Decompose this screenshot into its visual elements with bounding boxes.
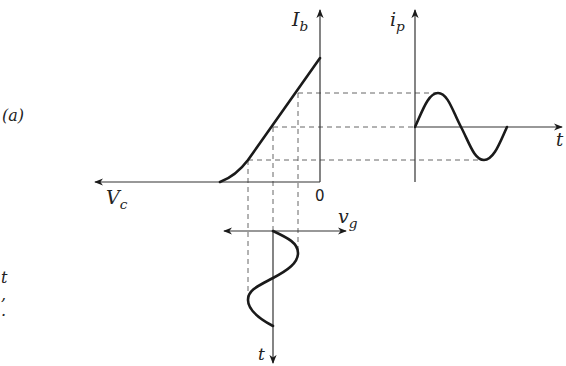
transfer-axes: [95, 10, 320, 182]
ip-sub: p: [396, 18, 405, 34]
vc-main: V: [106, 186, 120, 208]
origin-label: 0: [315, 189, 325, 204]
side-fragment-t: t: [1, 270, 7, 286]
side-fragment-period: .: [1, 303, 6, 319]
ib-sub: b: [300, 18, 309, 34]
output-axes: [415, 10, 562, 182]
panel-label: (a): [2, 108, 24, 124]
vc-axis-label: Vc: [106, 188, 127, 211]
t-right-label: t: [556, 131, 563, 149]
vg-axis-label: vg: [338, 207, 358, 230]
ib-main: I: [292, 8, 300, 30]
vg-sub: g: [349, 215, 358, 231]
projection-lines: [248, 93, 484, 300]
ib-axis-label: Ib: [292, 10, 308, 33]
tube-transfer-diagram: [0, 0, 566, 366]
vc-sub: c: [120, 196, 128, 212]
input-axes: [224, 231, 346, 363]
transfer-curve: [220, 58, 320, 182]
t-bottom-label: t: [258, 346, 265, 363]
vg-main: v: [338, 205, 349, 227]
ip-axis-label: ip: [390, 10, 405, 33]
